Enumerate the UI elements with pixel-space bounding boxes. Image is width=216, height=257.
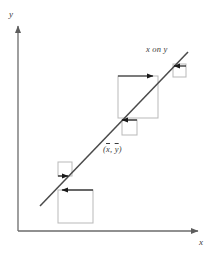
residual-squares-group bbox=[58, 64, 186, 223]
x-axis-label: x bbox=[199, 238, 203, 247]
regression-line-label: x on y bbox=[146, 45, 168, 54]
y-axis-label: y bbox=[9, 10, 13, 19]
regression-line bbox=[40, 52, 188, 206]
residual-square-mid-small bbox=[122, 120, 137, 135]
figure-canvas bbox=[0, 0, 216, 257]
residual-square-mid-large bbox=[118, 76, 158, 118]
mean-label-close: ) bbox=[119, 144, 122, 154]
residual-square-bottom-large bbox=[58, 190, 93, 223]
mean-point-label: (x, y) bbox=[103, 145, 122, 154]
regression-figure: y x x on y (x, y) bbox=[0, 0, 216, 257]
